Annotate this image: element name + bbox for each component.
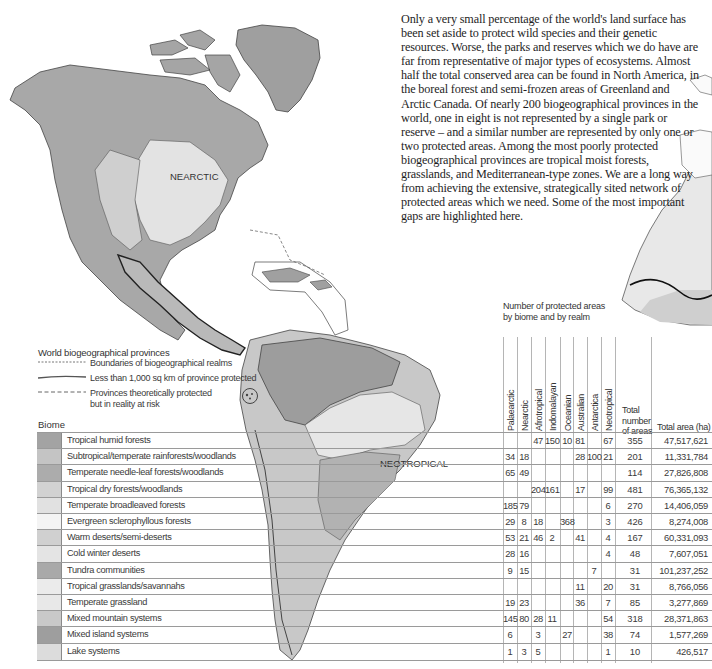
count-cell-nearctic: 23 — [517, 597, 531, 608]
count-cell-palaearctic: 6 — [503, 629, 517, 640]
biome-label: Mixed mountain systems — [67, 613, 162, 623]
biome-swatch — [37, 498, 62, 514]
count-cell-afrotropical: 46 — [531, 532, 545, 543]
legend-item-realm-boundaries: Boundaries of biogeographical realms — [38, 358, 232, 368]
caribbean-islands — [262, 268, 332, 290]
count-cell-afrotropical: 5 — [531, 646, 545, 657]
count-cell-palaearctic: 65 — [503, 467, 517, 478]
count-cell-oceanian: 368 — [560, 516, 574, 527]
biome-label: Tundra communities — [67, 565, 145, 575]
total-area-cell: 101,237,252 — [646, 565, 708, 576]
count-cell-neotropical: 3 — [601, 516, 615, 527]
count-cell-oceanian: 27 — [560, 629, 574, 640]
realm-header-antarctica: Antarctica — [587, 337, 600, 431]
table-title-line2: by biome and by realm — [503, 312, 605, 323]
count-cell-indomalayan: 2 — [545, 532, 559, 543]
biome-label: Tropical grasslands/savannahs — [67, 581, 185, 591]
biome-swatch — [37, 595, 62, 611]
realm-header-palaearctic: Palaearctic — [503, 337, 516, 431]
count-cell-indomalayan: 11 — [545, 613, 559, 624]
legend-label: Provinces theoretically protected but in… — [90, 388, 218, 410]
total-area-cell: 8,766,056 — [646, 581, 708, 592]
realm-header-label: Afrotropical — [534, 389, 544, 431]
biome-swatch — [37, 644, 62, 660]
legend-label: Less than 1,000 sq km of province protec… — [90, 373, 256, 383]
solid-line-icon — [38, 373, 86, 381]
legend-label: Boundaries of biogeographical realms — [90, 358, 232, 368]
realm-header-afrotropical: Afrotropical — [531, 337, 544, 431]
table-row: Tropical grasslands/savannahs1120318,766… — [37, 578, 712, 595]
count-cell-neotropical: 20 — [601, 581, 615, 592]
count-cell-oceanian: 10 — [560, 435, 574, 446]
count-cell-afrotropical: 3 — [531, 629, 545, 640]
realm-label-nearctic: NEARCTIC — [170, 171, 219, 182]
table-row: Temperate grassland1923367853,277,869 — [37, 594, 712, 611]
legend-item-less-than-1000: Less than 1,000 sq km of province protec… — [38, 373, 256, 383]
total-area-cell: 1,577,269 — [646, 629, 708, 640]
count-cell-australian: 17 — [573, 484, 587, 495]
legend-item-at-risk: Provinces theoretically protected but in… — [38, 388, 218, 410]
biome-label: Tropical humid forests — [67, 435, 150, 445]
count-cell-neotropical: 21 — [601, 451, 615, 462]
realm-header-neotropical: Neotropical — [601, 337, 614, 431]
total-header-line: Total — [622, 405, 652, 416]
count-cell-neotropical: 38 — [601, 629, 615, 640]
count-cell-palaearctic: 53 — [503, 532, 517, 543]
realm-header-label: Oceanian — [563, 395, 573, 431]
greenland-landmass — [236, 25, 320, 112]
total-area-cell: 7,607,051 — [646, 548, 708, 559]
total-area-cell: 28,371,863 — [646, 613, 708, 624]
count-cell-neotropical: 4 — [601, 532, 615, 543]
biome-swatch — [37, 514, 62, 530]
count-cell-australian: 81 — [573, 435, 587, 446]
total-area-cell: 47,517,621 — [646, 435, 708, 446]
count-cell-australian: 11 — [573, 581, 587, 592]
table-row: Cold winter deserts28164487,607,051 — [37, 545, 712, 562]
island-group-icon — [241, 387, 259, 405]
biome-swatch — [37, 611, 62, 627]
table-row: Tropical dry forests/woodlands2041611799… — [37, 481, 712, 498]
intro-paragraph: Only a very small percentage of the worl… — [401, 12, 701, 223]
biome-swatch — [37, 482, 62, 498]
count-cell-nearctic: 21 — [517, 532, 531, 543]
count-cell-antarctica: 100 — [587, 451, 601, 462]
biome-label: Cold winter deserts — [67, 548, 140, 558]
table-row: Temperate needle-leaf forests/woodlands6… — [37, 464, 712, 481]
count-cell-neotropical: 1 — [601, 646, 615, 657]
biome-swatch — [37, 433, 62, 449]
total-area-cell: 60,331,093 — [646, 532, 708, 543]
realm-header-nearctic: Nearctic — [517, 337, 530, 431]
count-cell-australian: 36 — [573, 597, 587, 608]
table-title-line1: Number of protected areas — [503, 301, 605, 312]
biome-swatch — [37, 563, 62, 579]
count-cell-neotropical: 7 — [601, 597, 615, 608]
count-cell-neotropical: 4 — [601, 548, 615, 559]
biome-swatch — [37, 449, 62, 465]
total-header-line: number — [622, 416, 652, 427]
count-cell-neotropical: 6 — [601, 500, 615, 511]
count-cell-palaearctic: 1 — [503, 646, 517, 657]
count-cell-palaearctic: 28 — [503, 548, 517, 559]
table-row: Subtropical/temperate rainforests/woodla… — [37, 448, 712, 465]
count-cell-indomalayan: 161 — [545, 484, 559, 495]
count-cell-nearctic: 18 — [517, 451, 531, 462]
count-cell-nearctic: 49 — [517, 467, 531, 478]
biome-label: Mixed island systems — [67, 629, 148, 639]
count-cell-palaearctic: 185 — [503, 500, 517, 511]
table-row: Mixed mountain systems1458028115431828,3… — [37, 610, 712, 627]
total-area-cell: 3,277,869 — [646, 597, 708, 608]
count-cell-nearctic: 3 — [517, 646, 531, 657]
count-cell-nearctic: 15 — [517, 565, 531, 576]
biome-swatch — [37, 530, 62, 546]
realm-header-label: Neotropical — [604, 389, 614, 431]
biome-swatch — [37, 627, 62, 643]
count-cell-neotropical: 54 — [601, 613, 615, 624]
realm-header-label: Australian — [576, 394, 586, 431]
realm-header-oceanian: Oceanian — [560, 337, 573, 431]
table-row: Tundra communities915731101,237,252 — [37, 562, 712, 579]
table-row: Warm deserts/semi-deserts532146241416760… — [37, 529, 712, 546]
table-row: Evergreen sclerophyllous forests29818368… — [37, 513, 712, 530]
biome-label: Lake systems — [67, 646, 120, 656]
realm-header-label: Indomalayan — [548, 383, 558, 431]
biome-label: Temperate broadleaved forests — [67, 500, 185, 510]
